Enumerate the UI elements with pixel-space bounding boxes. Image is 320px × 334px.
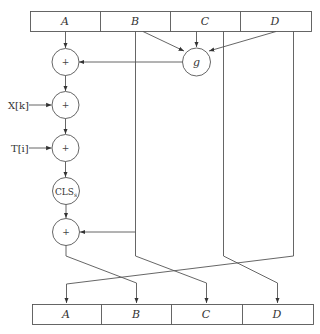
add1-node: +: [52, 49, 79, 76]
cls-subscript: s: [74, 191, 77, 198]
add-final-node: +: [53, 219, 80, 246]
input-register-c: C: [201, 15, 210, 28]
svg-text:CLSs: CLSs: [55, 187, 77, 198]
d-to-g-arrow: [209, 32, 276, 52]
input-register-d: D: [270, 15, 280, 28]
add-final-label: +: [62, 227, 70, 237]
output-register-box: A B C D: [33, 305, 314, 325]
d-bypass-line: [67, 32, 294, 304]
input-register-b: B: [130, 15, 139, 28]
input-t-label: T[i]: [11, 143, 29, 154]
output-register-d: D: [272, 308, 282, 321]
output-register-a: A: [61, 308, 70, 321]
output-register-b: B: [131, 308, 140, 321]
g-function-label: g: [193, 56, 200, 69]
add-t-label: +: [62, 143, 70, 153]
input-register-box: A B C D: [31, 12, 312, 32]
g-function-node: g: [183, 48, 211, 76]
addfinal-to-b-line: [66, 246, 137, 304]
input-x-label: X[k]: [8, 100, 29, 111]
c-bypass-line: [224, 32, 278, 304]
add1-label: +: [62, 57, 70, 67]
add-x-label: +: [62, 100, 70, 110]
diagram-canvas: A B C D A B C D g + + X[k] +: [0, 0, 320, 334]
cls-node: CLSs: [53, 178, 80, 205]
output-register-c: C: [202, 308, 211, 321]
input-register-a: A: [60, 15, 69, 28]
add-x-node: +: [52, 92, 79, 119]
cls-label: CLS: [55, 187, 74, 197]
add-t-node: +: [52, 135, 79, 162]
b-to-g-arrow: [143, 32, 184, 52]
